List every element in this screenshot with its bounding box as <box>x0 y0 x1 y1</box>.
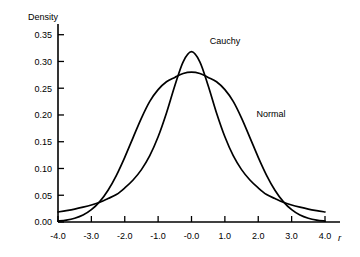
x-tick-label: 1.0 <box>219 231 232 241</box>
x-tick-label: -4.0 <box>50 231 66 241</box>
y-tick-label: 0.30 <box>34 57 52 67</box>
x-tick-label: -2.0 <box>117 231 133 241</box>
annotation-cauchy: Cauchy <box>210 36 241 46</box>
y-tick-label: 0.35 <box>34 30 52 40</box>
x-tick-label: 3.0 <box>285 231 298 241</box>
curve-cauchy <box>58 52 325 212</box>
x-tick-label: -1.0 <box>150 231 166 241</box>
x-tick-label: 2.0 <box>252 231 265 241</box>
x-tick-label: -3.0 <box>84 231 100 241</box>
y-axis: 0.000.050.100.150.200.250.300.35 <box>34 24 64 227</box>
y-tick-label: 0.00 <box>34 217 52 227</box>
y-axis-tick-labels: 0.000.050.100.150.200.250.300.35 <box>34 30 52 227</box>
y-tick-label: 0.10 <box>34 164 52 174</box>
x-axis: -4.0-3.0-2.0-1.0-0.01.02.03.04.0 <box>50 216 340 241</box>
chart-canvas: 0.000.050.100.150.200.250.300.35 -4.0-3.… <box>0 0 360 257</box>
annotation-normal: Normal <box>257 109 286 119</box>
x-axis-title: r <box>338 232 342 243</box>
x-tick-label: 4.0 <box>319 231 332 241</box>
curve-normal <box>58 72 325 221</box>
y-tick-label: 0.20 <box>34 110 52 120</box>
y-axis-title: Density <box>28 12 59 22</box>
x-tick-label: -0.0 <box>184 231 200 241</box>
y-tick-label: 0.05 <box>34 191 52 201</box>
y-tick-label: 0.25 <box>34 84 52 94</box>
data-series-group <box>58 52 325 221</box>
y-tick-label: 0.15 <box>34 137 52 147</box>
x-axis-tick-labels: -4.0-3.0-2.0-1.0-0.01.02.03.04.0 <box>50 231 331 241</box>
x-axis-ticks <box>58 216 325 222</box>
density-comparison-figure: 0.000.050.100.150.200.250.300.35 -4.0-3.… <box>0 0 360 257</box>
series-annotations: CauchyNormal <box>210 36 286 119</box>
y-axis-ticks <box>58 35 64 222</box>
